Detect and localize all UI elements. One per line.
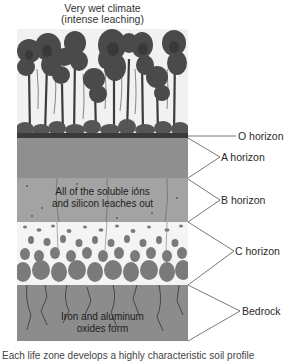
b-annotation-line-2: and silicon leaches out [17, 198, 188, 210]
bedrock-layer: Iron and aluminum oxides form [17, 285, 188, 341]
bedrock-annotation-line-1: Iron and aluminum [17, 311, 188, 323]
soil-profile-diagram: All of the soluble ions and silicon leac… [17, 29, 188, 341]
b-horizon-layer: All of the soluble ions and silicon leac… [17, 178, 188, 222]
b-annotation-line-1: All of the soluble ions [17, 186, 188, 198]
c-horizon-layer [17, 222, 188, 285]
rainforest-trees-icon [17, 29, 188, 138]
b-horizon-annotation: All of the soluble ions and silicon leac… [17, 186, 188, 210]
rock-fragments-icon [17, 222, 188, 285]
title-line-2: (intense leaching) [17, 14, 188, 25]
diagram-title: Very wet climate (intense leaching) [17, 3, 188, 25]
b-horizon-label: B horizon [221, 194, 265, 206]
bedrock-annotation: Iron and aluminum oxides form [17, 311, 188, 335]
a-horizon-layer [17, 138, 188, 178]
o-horizon-label: O horizon [238, 130, 284, 142]
vegetation-layer [17, 29, 188, 138]
a-horizon-label: A horizon [221, 151, 265, 163]
bedrock-label: Bedrock [242, 305, 281, 317]
bedrock-annotation-line-2: oxides form [17, 323, 188, 335]
c-horizon-label: C horizon [235, 245, 280, 257]
figure-caption: Each life zone develops a highly charact… [2, 350, 254, 361]
